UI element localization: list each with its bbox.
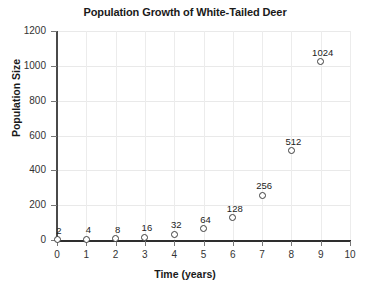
data-point-label: 8 [115, 224, 120, 235]
y-tick-label: 600 [6, 130, 46, 141]
x-tick-label: 2 [101, 249, 131, 260]
y-tick-mark [51, 66, 57, 67]
x-tick-label: 6 [218, 249, 248, 260]
x-tick-label: 9 [306, 249, 336, 260]
data-point-label: 256 [256, 180, 272, 191]
x-tick-label: 0 [42, 249, 72, 260]
y-tick-label: 400 [6, 164, 46, 175]
x-tick-mark [350, 241, 351, 246]
x-tick-mark [174, 241, 175, 246]
x-tick-label: 3 [130, 249, 160, 260]
data-point-label: 4 [86, 224, 91, 235]
data-point-marker[interactable] [171, 231, 178, 238]
data-point-label: 32 [171, 219, 182, 230]
data-point-label: 2 [56, 225, 61, 236]
data-point-label: 16 [142, 222, 153, 233]
y-tick-label: 800 [6, 95, 46, 106]
x-tick-label: 8 [276, 249, 306, 260]
gridline-vertical [86, 31, 87, 240]
gridline-vertical [204, 31, 205, 240]
gridline-vertical [116, 31, 117, 240]
x-tick-mark [233, 241, 234, 246]
chart-container: Population Growth of White-Tailed Deer P… [0, 0, 370, 289]
y-tick-mark [51, 136, 57, 137]
data-point-marker[interactable] [83, 236, 90, 243]
x-tick-label: 4 [159, 249, 189, 260]
x-axis-label: Time (years) [0, 268, 370, 280]
x-tick-mark [204, 241, 205, 246]
x-tick-mark [291, 241, 292, 246]
plot-area [57, 31, 350, 240]
y-tick-mark [51, 170, 57, 171]
gridline-vertical [262, 31, 263, 240]
y-tick-mark [51, 205, 57, 206]
gridline-vertical [174, 31, 175, 240]
data-point-label: 64 [200, 214, 211, 225]
data-point-marker[interactable] [259, 192, 266, 199]
x-tick-mark [145, 241, 146, 246]
data-point-marker[interactable] [54, 236, 61, 243]
x-tick-label: 10 [335, 249, 365, 260]
y-tick-label: 200 [6, 199, 46, 210]
gridline-vertical [350, 31, 351, 240]
x-tick-label: 5 [189, 249, 219, 260]
y-tick-label: 1200 [6, 25, 46, 36]
x-tick-mark [262, 241, 263, 246]
chart-title: Population Growth of White-Tailed Deer [0, 6, 370, 18]
y-tick-label: 0 [6, 234, 46, 245]
data-point-label: 1024 [312, 47, 333, 58]
y-tick-label: 1000 [6, 60, 46, 71]
data-point-label: 512 [285, 136, 301, 147]
x-tick-label: 1 [71, 249, 101, 260]
gridline-vertical [145, 31, 146, 240]
y-tick-mark [51, 101, 57, 102]
x-tick-label: 7 [247, 249, 277, 260]
x-tick-mark [321, 241, 322, 246]
data-point-label: 128 [227, 203, 243, 214]
y-tick-mark [51, 31, 57, 32]
